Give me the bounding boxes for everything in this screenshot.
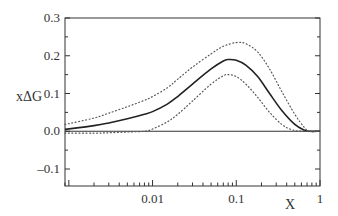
series-lines	[65, 42, 320, 133]
y-axis-label: xΔG	[16, 89, 42, 104]
x-tick-label: 0.01	[141, 191, 164, 206]
series-upper-bound	[65, 42, 320, 131]
y-tick-label: 0.0	[44, 123, 60, 138]
y-axis-ticks: 0.30.20.10.0–0.1	[36, 10, 320, 176]
y-tick-label: –0.1	[36, 161, 60, 176]
x-axis-label: X	[285, 197, 295, 212]
y-tick-label: 0.3	[44, 10, 60, 25]
plot-frame	[65, 18, 320, 186]
chart: 0.30.20.10.0–0.1 0.010.11 xΔG X	[0, 0, 338, 216]
y-tick-label: 0.2	[44, 48, 60, 63]
x-tick-label: 0.1	[228, 191, 244, 206]
y-tick-label: 0.1	[44, 86, 60, 101]
x-tick-label: 1	[317, 191, 324, 206]
series-central	[65, 59, 320, 131]
